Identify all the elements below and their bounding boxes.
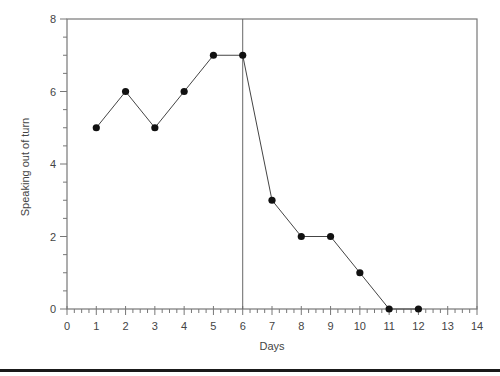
data-point-marker (356, 269, 363, 276)
data-point-marker (327, 233, 334, 240)
x-tick-label: 13 (442, 320, 454, 332)
y-tick-label: 6 (50, 86, 56, 98)
data-point-marker (93, 124, 100, 131)
x-tick-label: 6 (240, 320, 246, 332)
x-tick-label: 12 (412, 320, 424, 332)
x-tick-label: 10 (354, 320, 366, 332)
x-tick-label: 7 (269, 320, 275, 332)
minor-ticks (63, 37, 470, 313)
data-point-markers (93, 52, 422, 313)
data-point-marker (151, 124, 158, 131)
data-point-marker (298, 233, 305, 240)
bottom-rule-divider (0, 369, 500, 372)
data-point-marker (386, 305, 393, 312)
x-tick-label: 4 (181, 320, 187, 332)
data-point-marker (122, 88, 129, 95)
y-tick-label: 4 (50, 158, 56, 170)
data-point-marker (415, 305, 422, 312)
x-tick-label: 2 (123, 320, 129, 332)
y-tick-label: 0 (50, 303, 56, 315)
x-tick-label: 8 (298, 320, 304, 332)
plot-border (67, 19, 477, 309)
y-tick-label: 2 (50, 231, 56, 243)
x-tick-label: 11 (383, 320, 394, 332)
x-tick-label: 5 (210, 320, 216, 332)
x-tick-label: 0 (64, 320, 70, 332)
data-point-marker (210, 52, 217, 59)
x-tick-label: 3 (152, 320, 158, 332)
data-point-marker (181, 88, 188, 95)
y-axis-label: Speaking out of turn (19, 118, 31, 216)
plot-frame (67, 19, 477, 309)
x-axis-tick-labels: 01234567891011121314 (64, 320, 483, 332)
x-tick-label: 9 (328, 320, 334, 332)
y-tick-label: 8 (50, 13, 56, 25)
x-axis-label: Days (259, 340, 285, 352)
x-tick-label: 1 (93, 320, 99, 332)
line-chart: 01234567891011121314 02468 Days Speaking… (0, 0, 500, 376)
data-point-marker (239, 52, 246, 59)
data-point-marker (268, 197, 275, 204)
major-ticks (60, 19, 477, 315)
y-axis-tick-labels: 02468 (50, 13, 56, 315)
x-tick-label: 14 (471, 320, 483, 332)
data-series-line (96, 55, 418, 309)
